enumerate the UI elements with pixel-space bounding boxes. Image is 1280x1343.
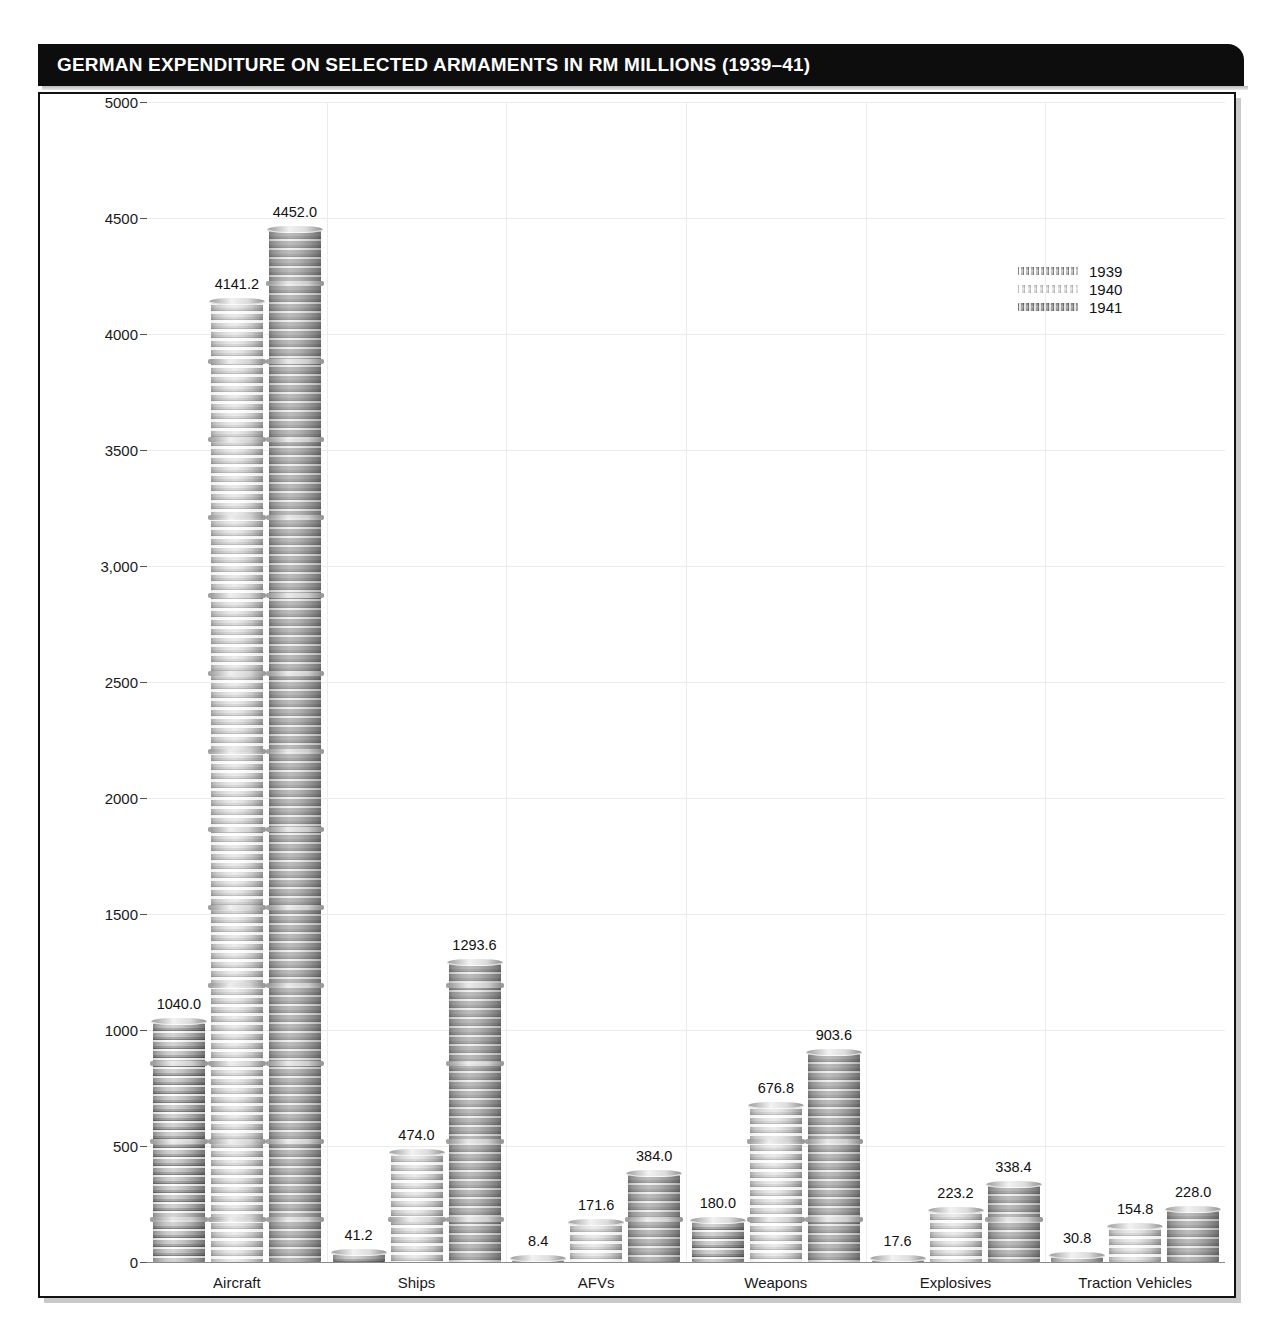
bar[interactable] — [449, 962, 501, 1262]
legend-item[interactable]: 1939 — [1018, 262, 1138, 280]
bar-coin-bulge — [985, 1217, 1043, 1222]
bar-coin-bulge — [266, 515, 324, 520]
y-axis-tick-label: 4000 — [48, 326, 138, 343]
legend-item[interactable]: 1940 — [1018, 280, 1138, 298]
legend-item[interactable]: 1941 — [1018, 298, 1138, 316]
bar-coin-bulge — [805, 1217, 863, 1222]
y-axis-tick-mark — [140, 682, 147, 683]
y-axis-tick-label: 3,000 — [48, 558, 138, 575]
category-separator — [506, 102, 507, 1262]
bar[interactable] — [153, 1021, 205, 1262]
y-axis-tick-mark — [140, 334, 147, 335]
legend-label: 1939 — [1089, 263, 1122, 280]
bar-coin-bulge — [446, 983, 504, 988]
bar-coin-bulge — [150, 1139, 208, 1144]
bar[interactable] — [570, 1222, 622, 1262]
y-axis-tick-label: 3500 — [48, 442, 138, 459]
bar-cap — [151, 1018, 207, 1025]
x-axis-category-label: Aircraft — [213, 1274, 261, 1291]
chart-figure: GERMAN EXPENDITURE ON SELECTED ARMAMENTS… — [38, 44, 1244, 1302]
bar-coin-bulge — [266, 359, 324, 364]
bar-coin-bulge — [208, 437, 266, 442]
bar-coin-bulge — [208, 827, 266, 832]
legend-swatch-icon — [1018, 285, 1078, 293]
bar-value-label: 474.0 — [398, 1127, 434, 1143]
bar-coin-bulge — [266, 1061, 324, 1066]
y-axis-tick-mark — [140, 798, 147, 799]
bar-value-label: 338.4 — [995, 1159, 1031, 1175]
bar-cap — [209, 298, 265, 305]
bar-value-label: 4141.2 — [215, 276, 259, 292]
plot-frame: 050010001500200025003,000350040004500500… — [38, 92, 1236, 1298]
bar-coin-bulge — [266, 671, 324, 676]
y-axis-tick-label: 500 — [48, 1138, 138, 1155]
bar-coin-bulge — [266, 983, 324, 988]
bar[interactable] — [930, 1210, 982, 1262]
bar-coin-bulge — [266, 1217, 324, 1222]
bar-cap — [626, 1170, 682, 1177]
chart-title-bar: GERMAN EXPENDITURE ON SELECTED ARMAMENTS… — [38, 44, 1244, 86]
category-separator — [686, 102, 687, 1262]
legend-label: 1940 — [1089, 281, 1122, 298]
bar-coin-bulge — [208, 593, 266, 598]
bar-coin-bulge — [266, 749, 324, 754]
bar-value-label: 17.6 — [883, 1233, 911, 1249]
y-axis-tick-label: 1000 — [48, 1022, 138, 1039]
bar-coin-bulge — [208, 1139, 266, 1144]
y-axis-tick-mark — [140, 218, 147, 219]
bar-value-label: 41.2 — [344, 1227, 372, 1243]
bar-value-label: 180.0 — [700, 1195, 736, 1211]
legend-label: 1941 — [1089, 299, 1122, 316]
y-axis-tick-mark — [140, 566, 147, 567]
bar[interactable] — [269, 229, 321, 1262]
bar-coin-bulge — [208, 1217, 266, 1222]
bar-coin-bulge — [625, 1217, 683, 1222]
page-top-artifact — [0, 0, 1280, 16]
bar[interactable] — [1167, 1209, 1219, 1262]
bar[interactable] — [1109, 1226, 1161, 1262]
bar[interactable] — [211, 301, 263, 1262]
category-separator — [866, 102, 867, 1262]
bar-value-label: 384.0 — [636, 1148, 672, 1164]
bar[interactable] — [628, 1173, 680, 1262]
title-bar-shadow — [42, 86, 1248, 90]
bar[interactable] — [988, 1184, 1040, 1263]
bar-coin-bulge — [208, 671, 266, 676]
bar[interactable] — [808, 1052, 860, 1262]
bar-value-label: 228.0 — [1175, 1184, 1211, 1200]
bar[interactable] — [512, 1258, 564, 1262]
gridline — [147, 1262, 1225, 1263]
bar-cap — [267, 226, 323, 233]
bar[interactable] — [692, 1220, 744, 1262]
bar-cap — [568, 1219, 624, 1226]
bar[interactable] — [333, 1252, 385, 1262]
category-separator — [327, 102, 328, 1262]
page-title: GERMAN EXPENDITURE ON SELECTED ARMAMENTS… — [38, 54, 810, 76]
bar-coin-bulge — [446, 1139, 504, 1144]
bar-coin-bulge — [446, 1061, 504, 1066]
bar-coin-bulge — [747, 1217, 805, 1222]
bar-coin-bulge — [388, 1217, 446, 1222]
bar[interactable] — [750, 1105, 802, 1262]
bar-coin-bulge — [208, 905, 266, 910]
bar-cap — [389, 1149, 445, 1156]
frame-shadow-right — [1236, 98, 1241, 1302]
bar-cap — [1165, 1206, 1221, 1213]
bar-coin-bulge — [446, 1217, 504, 1222]
legend-swatch-icon — [1018, 267, 1078, 275]
bar[interactable] — [391, 1152, 443, 1262]
bar-cap — [331, 1249, 387, 1256]
bar-value-label: 171.6 — [578, 1197, 614, 1213]
y-axis-tick-label: 0 — [48, 1254, 138, 1271]
bar-coin-bulge — [266, 281, 324, 286]
y-axis-tick-label: 1500 — [48, 906, 138, 923]
bar-coin-bulge — [266, 827, 324, 832]
bar[interactable] — [1051, 1255, 1103, 1262]
bar[interactable] — [872, 1258, 924, 1262]
bar-cap — [986, 1181, 1042, 1188]
bar-value-label: 223.2 — [937, 1185, 973, 1201]
bar-value-label: 154.8 — [1117, 1201, 1153, 1217]
bar-cap — [806, 1049, 862, 1056]
chart-legend: 1939 1940 1941 — [1018, 262, 1138, 316]
bar-cap — [870, 1255, 926, 1262]
